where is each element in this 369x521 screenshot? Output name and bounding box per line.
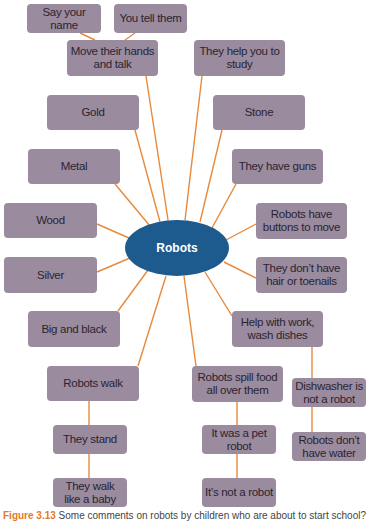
node-label: They help you to study <box>197 45 282 71</box>
center-node-robots: Robots <box>125 220 229 276</box>
node-have-guns: They have guns <box>232 149 323 184</box>
node-label: It was a pet robot <box>205 427 273 453</box>
node-label: Robots have buttons to move <box>259 208 344 234</box>
node-label: Help with work, wash dishes <box>235 316 320 342</box>
figure-caption: Figure 3.13 Some comments on robots by c… <box>3 510 366 521</box>
node-label: Dishwasher is not a robot <box>295 380 363 406</box>
node-label: They stand <box>63 433 117 446</box>
node-label: Stone <box>245 106 274 119</box>
node-dishwasher: Dishwasher is not a robot <box>292 378 366 407</box>
center-label: Robots <box>156 241 197 255</box>
node-label: They have guns <box>239 160 317 173</box>
node-move-hands-talk: Move their hands and talk <box>67 40 158 76</box>
node-big-black: Big and black <box>28 311 120 347</box>
node-label: Big and black <box>41 323 106 336</box>
node-label: Move their hands and talk <box>70 45 155 71</box>
node-no-hair: They don’t have hair or toenails <box>256 257 347 293</box>
node-silver: Silver <box>4 257 97 293</box>
node-label: It’s not a robot <box>205 486 273 499</box>
node-label: Robots walk <box>63 377 122 390</box>
figure-label: Figure 3.13 <box>3 510 56 521</box>
node-they-stand: They stand <box>53 425 127 454</box>
node-wood: Wood <box>4 203 97 238</box>
node-label: Wood <box>36 214 65 227</box>
node-label: Gold <box>81 106 104 119</box>
node-label: Say your name <box>30 6 98 32</box>
node-robots-walk: Robots walk <box>47 366 139 401</box>
node-help-study: They help you to study <box>194 40 285 76</box>
node-label: Robots don’t have water <box>295 434 363 460</box>
node-walk-baby: They walk like a baby <box>53 478 127 507</box>
node-no-water: Robots don’t have water <box>292 432 366 461</box>
figure-caption-text: Some comments on robots by children who … <box>59 510 366 521</box>
node-say-your-name: Say your name <box>27 4 101 33</box>
node-help-work: Help with work, wash dishes <box>232 311 323 347</box>
node-gold: Gold <box>47 95 139 130</box>
node-not-robot: It’s not a robot <box>202 478 276 507</box>
node-label: Silver <box>37 269 64 282</box>
node-label: They don’t have hair or toenails <box>259 262 344 288</box>
node-you-tell-them: You tell them <box>114 4 187 33</box>
mind-map-diagram: Robots Say your name You tell them Move … <box>0 0 369 521</box>
node-label: Robots spill food all over them <box>195 371 280 397</box>
node-buttons-move: Robots have buttons to move <box>256 203 347 239</box>
node-label: You tell them <box>119 12 181 25</box>
node-label: Metal <box>61 160 88 173</box>
node-stone: Stone <box>213 95 305 130</box>
node-label: They walk like a baby <box>56 480 124 506</box>
node-spill-food: Robots spill food all over them <box>192 366 283 402</box>
node-pet-robot: It was a pet robot <box>202 425 276 454</box>
node-metal: Metal <box>28 149 120 184</box>
